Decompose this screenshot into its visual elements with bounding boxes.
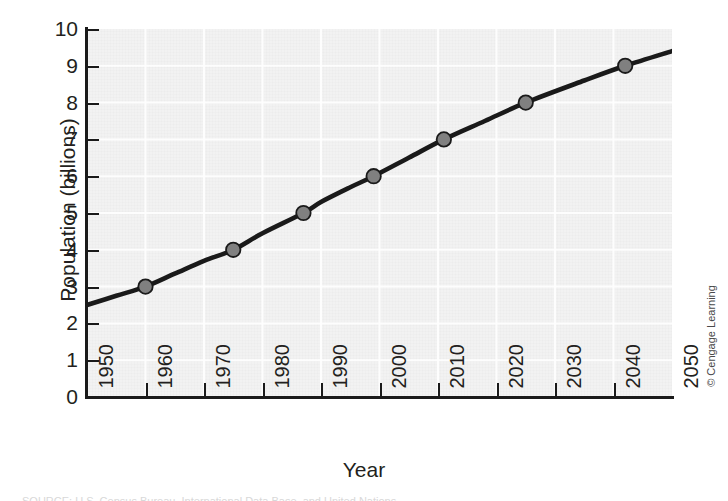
y-tick-mark	[88, 323, 99, 325]
y-tick-label: 3	[44, 276, 78, 297]
x-tick-mark	[263, 383, 265, 397]
x-tick-mark	[614, 383, 616, 397]
x-tick-label: 2010	[446, 344, 469, 404]
y-tick-label: 5	[44, 202, 78, 223]
source-caption: SOURCE: U.S. Census Bureau, Internationa…	[22, 492, 622, 501]
x-tick-label: 1980	[271, 344, 294, 404]
data-point-marker	[226, 243, 240, 257]
y-tick-label: 6	[44, 165, 78, 186]
x-tick-label: 1950	[95, 344, 118, 404]
y-tick-mark	[88, 250, 99, 252]
y-tick-mark	[88, 139, 99, 141]
y-tick-label: 8	[44, 92, 78, 113]
y-tick-label: 0	[44, 386, 78, 407]
y-tick-mark	[88, 287, 99, 289]
y-tick-label: 10	[44, 18, 78, 39]
y-tick-mark	[88, 176, 99, 178]
y-tick-label: 1	[44, 349, 78, 370]
y-tick-label: 7	[44, 128, 78, 149]
data-point-marker	[138, 279, 152, 293]
y-tick-mark	[88, 66, 99, 68]
x-tick-label: 2050	[680, 344, 703, 404]
y-tick-mark	[88, 29, 99, 31]
x-tick-label: 1990	[329, 344, 352, 404]
x-tick-label: 1960	[154, 344, 177, 404]
x-tick-mark	[497, 383, 499, 397]
x-tick-mark	[204, 383, 206, 397]
x-tick-label: 2040	[622, 344, 645, 404]
x-axis-title: Year	[0, 458, 728, 482]
x-tick-label: 2030	[563, 344, 586, 404]
plot-svg	[87, 29, 672, 397]
data-point-marker	[296, 206, 310, 220]
x-tick-mark	[321, 383, 323, 397]
x-tick-mark	[438, 383, 440, 397]
figure-container: Population (billions) 012345678910 19501…	[0, 0, 728, 501]
data-point-marker	[618, 59, 632, 73]
y-tick-label: 9	[44, 55, 78, 76]
data-point-marker	[519, 95, 533, 109]
data-point-marker	[366, 169, 380, 183]
gridlines	[87, 29, 672, 397]
x-tick-mark	[146, 383, 148, 397]
data-point-marker	[437, 132, 451, 146]
y-axis-tick-labels: 012345678910	[40, 0, 78, 501]
y-tick-label: 2	[44, 312, 78, 333]
x-tick-mark	[380, 383, 382, 397]
y-tick-mark	[88, 103, 99, 105]
y-tick-label: 4	[44, 239, 78, 260]
x-tick-label: 1970	[212, 344, 235, 404]
x-tick-label: 2000	[388, 344, 411, 404]
x-tick-label: 2020	[505, 344, 528, 404]
plot-area	[87, 29, 672, 397]
x-tick-mark	[555, 383, 557, 397]
y-tick-mark	[88, 213, 99, 215]
copyright-credit: © Cengage Learning	[705, 246, 717, 426]
